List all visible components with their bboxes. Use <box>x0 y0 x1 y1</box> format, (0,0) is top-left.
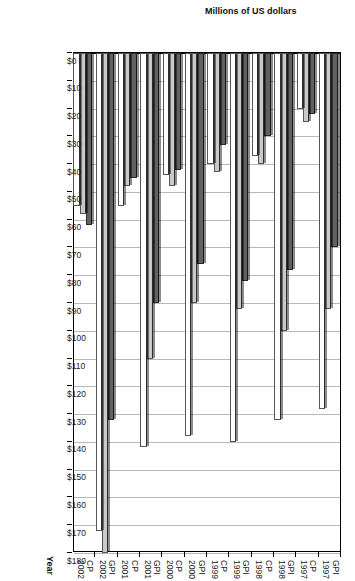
category-label: CP1997 <box>299 560 318 579</box>
bar-group <box>184 53 206 551</box>
category-label: CP2001 <box>120 560 139 579</box>
axis-tick <box>67 330 72 331</box>
axis-tick-label: $90 <box>67 306 81 316</box>
category-label: CP1998 <box>254 560 273 579</box>
category-year: 2002 <box>98 560 108 579</box>
category-name: CP <box>264 560 274 572</box>
category-tick <box>295 552 296 557</box>
category-tick <box>251 552 252 557</box>
category-name: CP <box>175 560 185 572</box>
axis-tick-label: $30 <box>67 139 81 149</box>
category-year: 2000 <box>187 560 197 579</box>
axis-tick <box>67 385 72 386</box>
category-year: 1999 <box>210 560 220 579</box>
axis-tick-label: $160 <box>67 500 86 510</box>
bar <box>96 53 102 531</box>
bar-chart-figure: Millions of US dollars Year $0$10$20$30$… <box>0 0 355 581</box>
category-label: GPI2000 <box>187 560 206 579</box>
category-label: CP2000 <box>165 560 184 579</box>
bar-group <box>117 53 139 551</box>
category-label: GPI1998 <box>276 560 295 579</box>
bar-group <box>273 53 295 551</box>
category-label: GPI1999 <box>232 560 251 579</box>
chart-image: Millions of US dollars Year $0$10$20$30$… <box>0 0 355 581</box>
bar-group <box>318 53 340 551</box>
bar <box>274 53 280 420</box>
axis-tick-label: $100 <box>67 333 86 343</box>
category-tick <box>184 552 185 557</box>
axis-tick <box>67 413 72 414</box>
category-tick <box>94 552 95 557</box>
category-tick <box>206 552 207 557</box>
axis-tick <box>67 358 72 359</box>
bar <box>207 53 213 164</box>
category-year: 1998 <box>277 560 287 579</box>
x-axis-title: Year <box>45 556 55 575</box>
category-year: 2001 <box>120 560 130 579</box>
category-name: GPI <box>242 560 252 575</box>
axis-tick-label: $150 <box>67 472 86 482</box>
axis-tick <box>67 552 72 553</box>
axis-tick-label: $140 <box>67 444 86 454</box>
axis-tick-label: $120 <box>67 389 86 399</box>
category-year: 2001 <box>143 560 153 579</box>
category-label: CP2002 <box>75 560 94 579</box>
axis-tick <box>67 524 72 525</box>
category-year: 1997 <box>299 560 309 579</box>
bar <box>73 53 79 206</box>
category-label: CP1999 <box>209 560 228 579</box>
axis-tick-label: $10 <box>67 83 81 93</box>
axis-tick-label: $110 <box>67 361 85 371</box>
axis-tick-label: $40 <box>67 167 81 177</box>
bar-group <box>228 53 250 551</box>
category-name: GPI <box>286 560 296 575</box>
category-name: CP <box>219 560 229 572</box>
bar-group <box>206 53 228 551</box>
bar <box>118 53 124 206</box>
axis-tick <box>67 108 72 109</box>
axis-tick <box>67 80 72 81</box>
y-axis-title: Millions of US dollars <box>205 6 297 16</box>
axis-tick <box>67 469 72 470</box>
bar <box>319 53 325 409</box>
gridline <box>74 553 340 554</box>
category-year: 2002 <box>76 560 86 579</box>
category-tick <box>318 552 319 557</box>
category-tick <box>273 552 274 557</box>
category-name: CP <box>85 560 95 572</box>
category-name: GPI <box>152 560 162 575</box>
axis-tick <box>67 496 72 497</box>
bar-group <box>295 53 317 551</box>
category-name: GPI <box>197 560 207 575</box>
category-year: 1999 <box>232 560 242 579</box>
bar <box>185 53 191 436</box>
axis-tick <box>67 246 72 247</box>
axis-tick-label: $170 <box>67 528 86 538</box>
category-label: GPI2001 <box>142 560 161 579</box>
axis-tick <box>67 219 72 220</box>
category-name: GPI <box>108 560 118 575</box>
category-label: GPI2002 <box>98 560 117 579</box>
bar <box>163 53 169 175</box>
bar-group <box>251 53 273 551</box>
plot-area <box>73 52 341 552</box>
category-tick <box>340 552 341 557</box>
axis-tick-label: $130 <box>67 417 86 427</box>
axis-tick-label: $20 <box>67 111 81 121</box>
axis-tick <box>67 191 72 192</box>
axis-tick <box>67 302 72 303</box>
axis-tick-label: $60 <box>67 222 81 232</box>
axis-tick-label: $50 <box>67 194 81 204</box>
bar <box>297 53 303 109</box>
category-name: CP <box>130 560 140 572</box>
axis-tick-label: $70 <box>67 250 81 260</box>
bar <box>252 53 258 156</box>
category-tick <box>139 552 140 557</box>
bar-group <box>161 53 183 551</box>
category-year: 2000 <box>165 560 175 579</box>
axis-tick <box>67 274 72 275</box>
bar-group <box>139 53 161 551</box>
chart-rotated-canvas: Millions of US dollars Year $0$10$20$30$… <box>0 0 355 581</box>
category-tick <box>161 552 162 557</box>
category-tick <box>228 552 229 557</box>
